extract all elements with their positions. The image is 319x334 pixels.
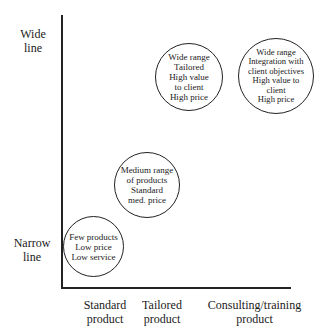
x-label-line: Tailored — [127, 298, 197, 312]
circle-line: Low price — [69, 242, 118, 252]
y-label-narrow-line: Narrow line — [6, 236, 58, 264]
circle-line: Medium range — [121, 165, 174, 175]
circle-text: Medium range of products Standard med. p… — [121, 165, 174, 205]
circle-line: Low service — [69, 252, 118, 262]
x-label-line: Consulting/training — [192, 298, 317, 312]
circle-line: med. price — [121, 195, 174, 205]
circle-wide-tailored: Wide range Tailored High value to client… — [155, 43, 223, 111]
x-label-line: product — [127, 312, 197, 326]
circle-line: High value — [168, 72, 209, 82]
circle-line: of products — [121, 175, 174, 185]
circle-text: Wide range Integration with client objec… — [248, 48, 304, 105]
x-axis-line — [61, 287, 291, 289]
circle-narrow-standard: Few products Low price Low service — [63, 216, 124, 277]
y-label-line: line — [8, 41, 58, 55]
circle-text: Wide range Tailored High value to client… — [168, 52, 209, 102]
circle-wide-consulting: Wide range Integration with client objec… — [238, 38, 314, 114]
x-label-tailored-product: Tailored product — [127, 298, 197, 326]
circle-line: Standard — [121, 185, 174, 195]
y-label-line: Wide — [8, 27, 58, 41]
circle-line: Few products — [69, 232, 118, 242]
y-label-wide-line: Wide line — [8, 27, 58, 55]
y-label-line: Narrow — [6, 236, 58, 250]
circle-line: Wide range — [168, 52, 209, 62]
circle-line: to client — [168, 82, 209, 92]
circle-line: High price — [248, 95, 304, 105]
circle-text: Few products Low price Low service — [69, 232, 118, 262]
circle-line: High price — [168, 92, 209, 102]
x-label-consulting-product: Consulting/training product — [192, 298, 317, 326]
circle-line: Tailored — [168, 62, 209, 72]
y-label-line: line — [6, 250, 58, 264]
x-label-line: product — [192, 312, 317, 326]
circle-medium-range: Medium range of products Standard med. p… — [114, 152, 180, 218]
